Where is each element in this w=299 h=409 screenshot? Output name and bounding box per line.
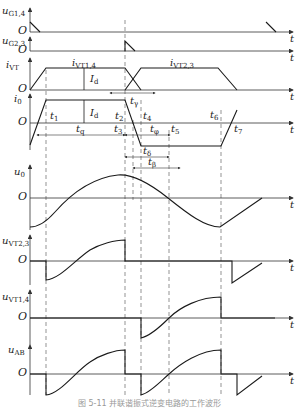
t-axis-label: t bbox=[290, 34, 294, 44]
axis-label-uVT14: uVT1,4 bbox=[2, 292, 29, 305]
waveform-diagram bbox=[0, 0, 299, 409]
origin-label: O bbox=[18, 255, 27, 265]
axis-label-uVT23: uVT2,3 bbox=[2, 236, 29, 249]
label-Id: Id bbox=[90, 108, 98, 121]
label-tq: tq bbox=[76, 124, 85, 137]
label-t7: t7 bbox=[234, 124, 243, 137]
label-t3: t3 bbox=[114, 124, 123, 137]
label-Id: Id bbox=[90, 74, 98, 87]
t-axis-label: t bbox=[290, 53, 294, 63]
axes bbox=[30, 8, 293, 395]
t-axis-label: t bbox=[290, 376, 294, 386]
origin-label: O bbox=[18, 192, 27, 202]
dashed-guides bbox=[46, 20, 221, 395]
label-t6: t6 bbox=[210, 110, 219, 123]
t-axis-label: t bbox=[290, 92, 294, 102]
figure-caption: 图 5-11 并联谐振式逆变电路的工作波形 bbox=[0, 397, 299, 408]
origin-label: O bbox=[18, 45, 27, 55]
label-tphi: tφ bbox=[150, 124, 159, 137]
label-tgamma: tγ bbox=[130, 96, 138, 109]
waveforms bbox=[30, 22, 276, 395]
label-tbeta: tβ bbox=[148, 157, 156, 170]
axis-label-uAB: uAB bbox=[8, 345, 25, 358]
axis-label-u0: u0 bbox=[14, 167, 25, 180]
origin-label: O bbox=[18, 84, 27, 94]
origin-label: O bbox=[18, 26, 27, 36]
label-t1: t1 bbox=[50, 111, 59, 124]
axis-label-uG14: uG1,4 bbox=[2, 6, 25, 19]
origin-label: O bbox=[18, 117, 27, 127]
label-iVT23: iVT2,3 bbox=[170, 58, 194, 71]
origin-label: O bbox=[18, 368, 27, 378]
t-axis-label: t bbox=[290, 263, 294, 273]
t-axis-label: t bbox=[290, 125, 294, 135]
label-iVT14: iVT1,4 bbox=[72, 58, 96, 71]
label-t5: t5 bbox=[171, 124, 180, 137]
axis-label-iVT: iVT bbox=[6, 60, 19, 73]
t-axis-label: t bbox=[290, 320, 294, 330]
t-axis-label: t bbox=[290, 200, 294, 210]
origin-label: O bbox=[18, 312, 27, 322]
axis-label-i0: i0 bbox=[14, 94, 22, 107]
